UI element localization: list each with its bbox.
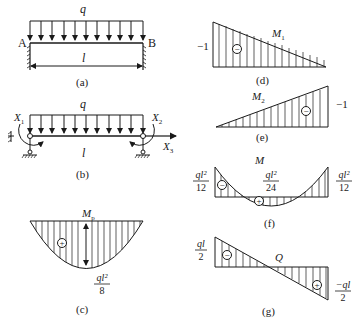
figure-b-basic-system: q [8, 97, 176, 181]
span-label: l [82, 51, 86, 65]
x1-label: X1 [13, 111, 25, 126]
figure-d-m1-diagram: − M1 −1 (d) [197, 22, 326, 87]
f-mid-num: ql² [266, 169, 278, 180]
svg-text:−: − [219, 180, 224, 190]
load-label-q: q [80, 2, 86, 16]
svg-text:+: + [314, 280, 319, 290]
span-label: l [82, 146, 86, 160]
mp-value-den: 8 [100, 285, 105, 296]
horizontal-restraint-left [8, 131, 14, 142]
q-title: Q [275, 251, 283, 263]
x2-label: X2 [151, 111, 163, 126]
caption-g: (g) [262, 305, 275, 318]
mp-title: Mp [81, 207, 95, 222]
m2-value: −1 [336, 98, 348, 110]
caption-b: (b) [76, 168, 89, 181]
caption-f: (f) [264, 217, 275, 230]
fixed-support-right [143, 43, 146, 70]
hinge-left [28, 134, 33, 139]
caption-d: (d) [256, 74, 269, 87]
fixed-support-left [27, 43, 30, 70]
svg-text:+: + [256, 196, 261, 206]
f-left-den: 12 [196, 182, 206, 193]
svg-text:−: − [224, 250, 229, 260]
g-right-num: −ql [336, 279, 351, 290]
pin-support-right [135, 138, 150, 158]
m1-value: −1 [197, 40, 209, 52]
support-label-a: A [18, 36, 27, 50]
figure-g-shear-diagram: − + Q ql 2 −ql 2 (g) [195, 237, 351, 318]
f-right-num: ql² [339, 169, 351, 180]
g-left-num: ql [197, 238, 205, 249]
x3-label: X3 [162, 140, 174, 155]
hinge-right [141, 134, 146, 139]
figure-c-mp-diagram: Mp + ql² 8 (c) [30, 207, 143, 316]
svg-text:−: − [303, 106, 308, 116]
support-label-b: B [148, 36, 156, 50]
f-left-num: ql² [196, 169, 208, 180]
load-label-q: q [80, 97, 86, 111]
figure-e-m2-diagram: − M2 −1 (e) [216, 86, 348, 144]
pin-support-left [22, 138, 37, 158]
f-right-den: 12 [339, 182, 349, 193]
caption-c: (c) [76, 303, 89, 316]
svg-text:−: − [234, 44, 239, 54]
m1-title: M1 [271, 27, 285, 42]
svg-text:+: + [59, 238, 64, 248]
g-left-den: 2 [199, 251, 204, 262]
figure-a-fixed-beam: q A B l (a) [18, 2, 156, 89]
caption-a: (a) [76, 76, 89, 89]
m-title: M [254, 154, 265, 166]
figure-f-final-moment-diagram: M − + ql² 12 ql² 24 ql² 1 [193, 154, 352, 230]
caption-e: (e) [256, 131, 269, 144]
f-mid-den: 24 [266, 182, 276, 193]
distributed-load-arrows [30, 115, 143, 133]
g-right-den: 2 [341, 292, 346, 303]
mp-value-num: ql² [97, 272, 109, 283]
structural-diagram: q A B l (a) q [0, 0, 354, 319]
distributed-load-arrows [30, 21, 143, 40]
m2-title: M2 [251, 90, 265, 105]
